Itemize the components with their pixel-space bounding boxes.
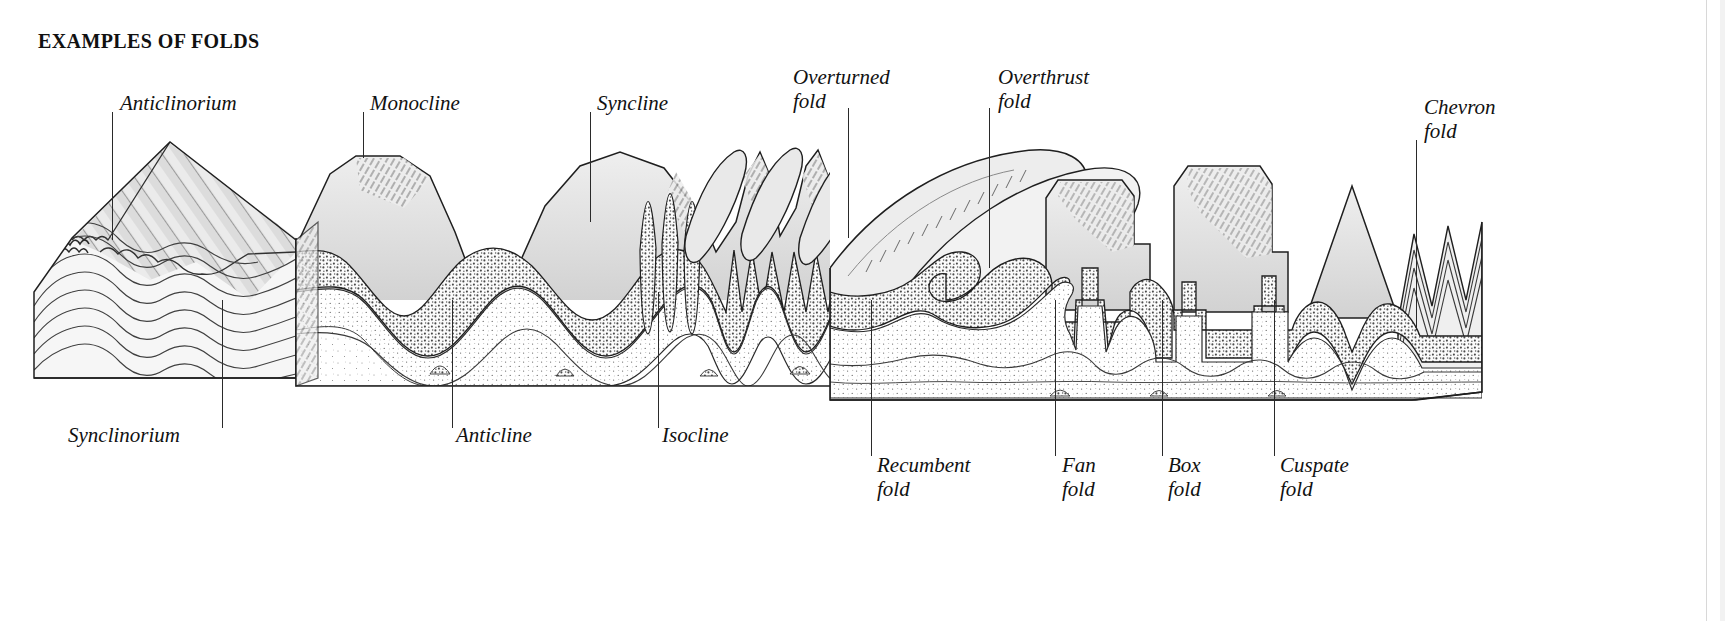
leader-box-fold: [1162, 300, 1163, 456]
label-fan-fold: Fan fold: [1062, 454, 1096, 501]
label-anticlinorium: Anticlinorium: [120, 92, 237, 116]
right-block-folds: [830, 120, 1482, 410]
left-block-anticlinorium: [30, 130, 302, 386]
leader-anticlinorium: [112, 112, 113, 240]
label-box-fold: Box fold: [1168, 454, 1201, 501]
label-synclinorium: Synclinorium: [68, 424, 180, 448]
label-cuspate-fold: Cuspate fold: [1280, 454, 1349, 501]
label-recumbent-fold: Recumbent fold: [877, 454, 970, 501]
leader-overturned-fold: [848, 108, 849, 238]
leader-chevron-fold: [1416, 140, 1417, 330]
leader-syncline: [590, 112, 591, 222]
label-isocline: Isocline: [662, 424, 728, 448]
center-block-folds: [296, 120, 858, 386]
page-edge-shadow: [1720, 0, 1725, 621]
diagram-page: EXAMPLES OF FOLDS Anticlinorium Monoclin…: [0, 0, 1725, 621]
label-anticline: Anticline: [456, 424, 532, 448]
label-overturned-fold: Overturned fold: [793, 66, 890, 113]
label-chevron-fold: Chevron fold: [1424, 96, 1496, 143]
leader-synclinorium: [222, 300, 223, 428]
leader-isocline: [658, 292, 659, 428]
leader-anticline: [452, 300, 453, 428]
label-monocline: Monocline: [370, 92, 460, 116]
leader-fan-fold: [1055, 300, 1056, 456]
leader-recumbent-fold: [871, 300, 872, 456]
label-syncline: Syncline: [597, 92, 668, 116]
leader-cuspate-fold: [1274, 300, 1275, 456]
leader-overthrust-fold: [989, 108, 990, 268]
label-overthrust-fold: Overthrust fold: [998, 66, 1089, 113]
leader-monocline: [363, 112, 364, 158]
page-title: EXAMPLES OF FOLDS: [38, 30, 260, 53]
